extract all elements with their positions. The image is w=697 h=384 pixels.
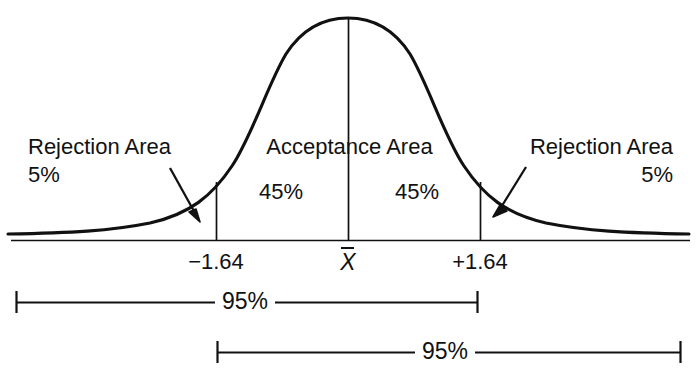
rejection-area-left-percent: 5% [28, 163, 171, 188]
acceptance-area-right-percent: 45% [372, 180, 462, 205]
tick-label-mean: X [308, 249, 388, 276]
rejection-area-right-label: Rejection Area 5% [530, 135, 673, 187]
curve-canvas [0, 0, 697, 384]
rejection-area-right-title: Rejection Area [530, 134, 673, 159]
normal-curve-figure: Rejection Area 5% Rejection Area 5% Acce… [0, 0, 697, 384]
tick-label-positive-1-64: +1.64 [425, 249, 535, 275]
rejection-area-left-label: Rejection Area 5% [28, 135, 171, 187]
acceptance-area-title: Acceptance Area [252, 135, 447, 160]
bracket-outer-label: 95% [215, 288, 275, 315]
x-bar-symbol: X [340, 249, 355, 276]
tick-label-negative-1-64: −1.64 [161, 249, 271, 275]
rejection-area-left-title: Rejection Area [28, 134, 171, 159]
bracket-inner-label: 95% [415, 338, 475, 365]
rejection-area-right-percent: 5% [530, 163, 673, 188]
acceptance-area-left-percent: 45% [236, 180, 326, 205]
